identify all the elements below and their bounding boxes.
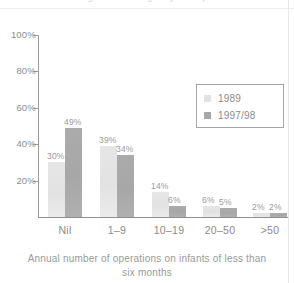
plot-area: 100%80%60%40%20% 30%49%39%34%14%6%6%5%2%… [0, 0, 294, 283]
value-label-1997-98-19: 34% [116, 144, 137, 154]
x-axis-caption-line-2: six months [122, 267, 172, 278]
legend-label-1997-98: 1997/98 [218, 110, 256, 121]
bar-1989-1019 [152, 192, 169, 217]
value-label-1997-98-50: 2% [269, 202, 290, 212]
x-axis-caption: Annual number of operations on infants o… [14, 252, 280, 280]
x-category-label-2050: 20–50 [195, 224, 245, 236]
value-label-1997-98-2050: 5% [219, 197, 240, 207]
bar-chart-figure: arising in an emergency or unplanned sit… [0, 0, 294, 283]
legend-label-1989: 1989 [218, 93, 241, 104]
bar-1997-98-1019 [169, 206, 186, 217]
bar-1997-98-Nil [65, 128, 82, 217]
value-label-1997-98-1019: 6% [168, 195, 189, 205]
legend: 1989 1997/98 [196, 84, 284, 128]
x-category-label-19: 1–9 [92, 224, 142, 236]
x-category-label-50: >50 [245, 224, 294, 236]
legend-swatch-1989 [204, 95, 211, 102]
legend-swatch-1997-98 [204, 112, 211, 119]
bar-1989-19 [100, 146, 117, 217]
x-axis-caption-line-1: Annual number of operations on infants o… [28, 253, 267, 264]
legend-item-1997-98: 1997/98 [204, 108, 256, 122]
bar-1997-98-2050 [220, 208, 237, 217]
x-axis-line [38, 217, 288, 218]
bar-1989-2050 [203, 206, 220, 217]
legend-item-1989: 1989 [204, 91, 241, 105]
bar-1997-98-19 [117, 155, 134, 217]
x-category-label-Nil: Nil [40, 224, 90, 236]
value-label-1997-98-Nil: 49% [64, 117, 85, 127]
bar-1989-Nil [48, 162, 65, 217]
bar-1989-50 [253, 213, 270, 217]
x-category-label-1019: 10–19 [144, 224, 194, 236]
bar-1997-98-50 [270, 213, 287, 217]
value-label-1989-1019: 14% [151, 181, 172, 191]
